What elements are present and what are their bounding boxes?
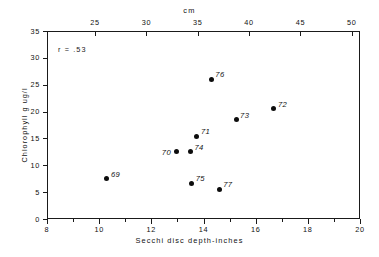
data-point-marker: [217, 187, 222, 192]
x-axis-tick-label: 10: [94, 225, 104, 234]
scatter-plot-figure: cm Secchi disc depth-inches Chlorophyll …: [0, 0, 379, 257]
y-axis-tick: [43, 192, 47, 193]
y-axis-tick-label: 5: [21, 188, 40, 197]
top-axis-tick-label: 35: [193, 18, 203, 27]
y-axis-tick: [43, 138, 47, 139]
data-point-label: 72: [278, 100, 287, 109]
data-point-marker: [189, 181, 194, 186]
x-axis-tick: [47, 219, 48, 224]
x-axis-minor-tick: [334, 219, 335, 222]
y-axis-tick: [43, 112, 47, 113]
y-axis-tick-label: 0: [21, 215, 40, 224]
correlation-annotation: r = .53: [58, 45, 87, 54]
top-axis-tick: [198, 31, 199, 36]
top-axis-tick: [146, 31, 147, 36]
x-axis-tick: [99, 219, 100, 224]
data-point-label: 69: [111, 170, 120, 179]
y-axis-tick-label: 30: [21, 53, 40, 62]
top-axis-tick: [249, 31, 250, 36]
top-axis-tick: [95, 31, 96, 36]
y-axis-tick: [43, 165, 47, 166]
x-axis-minor-tick: [177, 219, 178, 222]
data-point-label: 75: [196, 174, 205, 183]
y-axis-tick-label: 35: [21, 27, 40, 36]
top-axis-tick-label: 40: [244, 18, 254, 27]
x-axis-tick: [151, 219, 152, 224]
x-axis-minor-tick: [73, 219, 74, 222]
top-axis-tick: [300, 31, 301, 36]
y-axis-tick: [43, 31, 47, 32]
x-axis-tick: [204, 219, 205, 224]
x-axis-minor-tick: [282, 219, 283, 222]
data-point-marker: [234, 117, 239, 122]
x-axis-minor-tick: [230, 219, 231, 222]
data-point-label: 76: [215, 70, 224, 79]
data-point-marker: [209, 77, 214, 82]
x-axis-tick-label: 18: [303, 225, 313, 234]
x-axis-title: Secchi disc depth-inches: [0, 236, 379, 245]
data-point-label: 74: [194, 143, 203, 152]
y-axis-tick: [43, 85, 47, 86]
top-axis-tick-label: 50: [347, 18, 357, 27]
x-axis-tick-label: 12: [147, 225, 157, 234]
x-axis-tick-label: 20: [355, 225, 365, 234]
top-axis-tick-label: 45: [296, 18, 306, 27]
plot-area: [47, 31, 360, 219]
y-axis-tick-label: 15: [21, 134, 40, 143]
data-point-label: 73: [240, 111, 249, 120]
top-axis-tick: [352, 31, 353, 36]
x-axis-tick: [308, 219, 309, 224]
x-axis-tick: [256, 219, 257, 224]
data-point-label: 77: [223, 180, 232, 189]
y-axis-tick: [43, 58, 47, 59]
data-point-marker: [174, 149, 179, 154]
x-axis-minor-tick: [125, 219, 126, 222]
top-axis-tick-label: 25: [90, 18, 100, 27]
x-axis-tick-label: 16: [251, 225, 261, 234]
x-axis-tick: [360, 219, 361, 224]
y-axis-tick-label: 10: [21, 161, 40, 170]
x-axis-tick-label: 8: [45, 225, 50, 234]
y-axis-tick-label: 20: [21, 107, 40, 116]
y-axis-tick: [43, 219, 47, 220]
x-axis-tick-label: 14: [199, 225, 209, 234]
data-point-label: 71: [201, 127, 210, 136]
y-axis-tick-label: 25: [21, 80, 40, 89]
top-axis-tick-label: 30: [142, 18, 152, 27]
data-point-label: 70: [162, 148, 171, 157]
top-axis-title: cm: [0, 6, 379, 15]
